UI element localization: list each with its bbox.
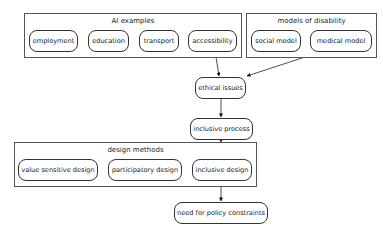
node-participatory-design: participatory design	[108, 159, 182, 181]
node-inclusive-design: inclusive design	[192, 159, 252, 181]
node-ethical-issues: ethical issues	[195, 77, 246, 99]
node-value-sensitive-design: value sensitive design	[18, 159, 98, 181]
cluster-label: design methods	[15, 146, 256, 154]
node-medical-model: medical model	[310, 30, 372, 52]
node-need-for-policy-constraints: need for policy constraints	[174, 202, 268, 224]
node-accessibility: accessibility	[188, 30, 237, 52]
node-inclusive-process: inclusive process	[190, 118, 253, 140]
node-employment: employment	[29, 30, 78, 52]
cluster-label: models of disability	[247, 17, 376, 25]
edge-models-to-ethical	[247, 57, 305, 76]
node-transport: transport	[139, 30, 179, 52]
node-social-model: social model	[251, 30, 301, 52]
edge-ai-to-ethical	[216, 57, 219, 76]
cluster-label: AI examples	[25, 17, 241, 25]
node-education: education	[88, 30, 129, 52]
